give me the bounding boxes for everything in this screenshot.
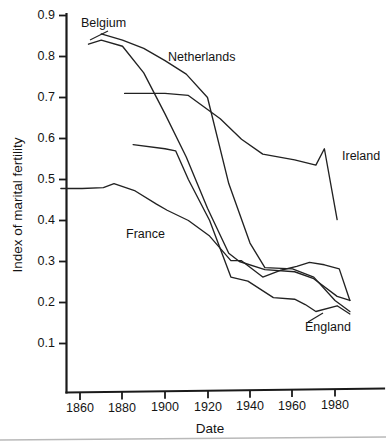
series-line-belgium xyxy=(89,40,350,300)
series-labels-group: Belgium Netherlands Ireland France Engla… xyxy=(81,16,380,334)
x-tick-label-1920: 1920 xyxy=(194,400,222,414)
y-tick-label-9: 0.9 xyxy=(38,8,55,22)
series-label-belgium: Belgium xyxy=(81,16,126,30)
x-tick-label-1880: 1880 xyxy=(108,401,136,415)
y-ticks-group xyxy=(59,16,67,344)
x-axis-line xyxy=(67,389,385,393)
y-tick-label-2: 0.2 xyxy=(38,295,55,309)
series-line-ireland xyxy=(125,93,338,219)
marital-fertility-line-chart: 0.9 0.8 0.7 0.6 0.5 0.4 0.3 0.2 0.1 1860… xyxy=(0,0,386,442)
y-tick-label-5: 0.5 xyxy=(38,172,55,186)
x-tick-labels-group: 1860 1880 1900 1920 1940 1960 1980 xyxy=(66,398,349,415)
series-label-ireland: Ireland xyxy=(342,149,380,163)
x-axis-title: Date xyxy=(196,421,225,436)
chart-container: 0.9 0.8 0.7 0.6 0.5 0.4 0.3 0.2 0.1 1860… xyxy=(0,0,386,442)
y-tick-label-6: 0.6 xyxy=(38,131,55,145)
y-tick-label-4: 0.4 xyxy=(38,213,55,227)
x-tick-label-1860: 1860 xyxy=(66,401,94,415)
page-edge-rule xyxy=(0,437,386,440)
x-tick-label-1940: 1940 xyxy=(236,399,264,413)
y-tick-label-7: 0.7 xyxy=(38,90,55,104)
series-label-netherlands: Netherlands xyxy=(168,50,235,64)
x-tick-label-1900: 1900 xyxy=(151,400,179,414)
series-group xyxy=(61,34,350,314)
y-tick-label-8: 0.8 xyxy=(38,49,55,63)
series-line-france xyxy=(61,184,350,301)
y-tick-labels-group: 0.9 0.8 0.7 0.6 0.5 0.4 0.3 0.2 0.1 xyxy=(38,8,55,350)
y-tick-label-3: 0.3 xyxy=(38,254,55,268)
y-tick-label-1: 0.1 xyxy=(38,336,55,350)
series-label-france: France xyxy=(126,227,165,241)
x-tick-label-1980: 1980 xyxy=(321,398,349,412)
series-line-netherlands xyxy=(101,34,350,312)
x-tick-label-1960: 1960 xyxy=(278,399,306,413)
y-axis-title: Index of marital fertility xyxy=(10,137,25,272)
axes-group xyxy=(67,14,385,393)
series-label-england: England xyxy=(305,320,351,334)
series-line-england xyxy=(133,145,350,314)
